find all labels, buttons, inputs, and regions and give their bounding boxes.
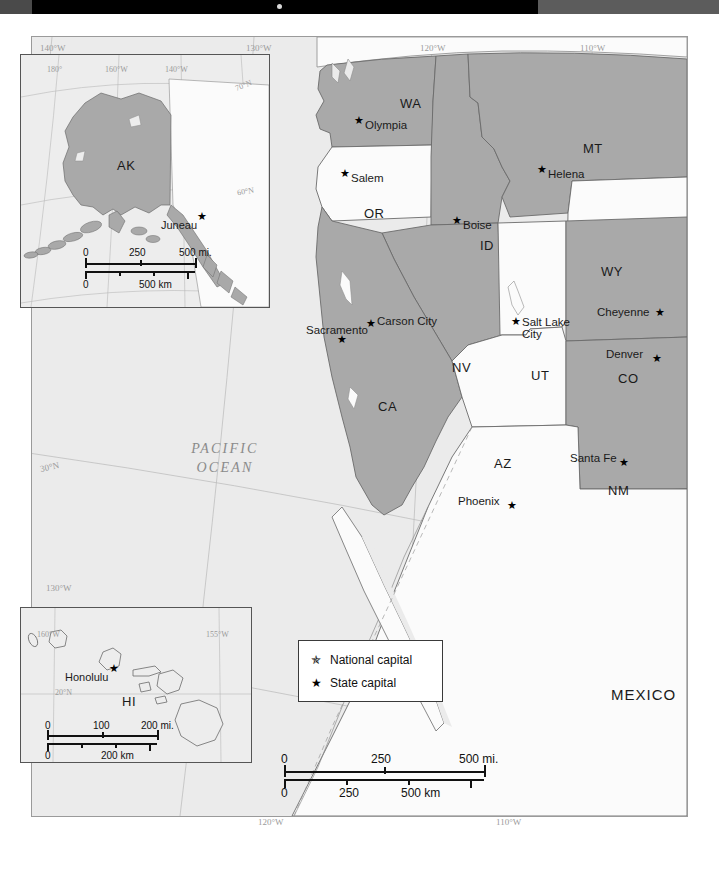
- main-scale-mi-500: 500 mi.: [459, 752, 498, 766]
- hawaii-graticule-20n: 20°N: [55, 688, 72, 697]
- hawaii-graticule-155w: 155°W: [206, 630, 229, 639]
- legend-item-national-capital: ✯ National capital: [309, 653, 412, 667]
- hawaii-capital-star: ★: [109, 663, 119, 674]
- hawaii-scale-mi-100: 100: [93, 720, 110, 731]
- capital-star-phoenix: ★: [507, 500, 517, 511]
- state-co: [566, 217, 687, 341]
- ocean-label-line1: PACIFIC: [150, 440, 300, 459]
- ocean-label-line2: OCEAN: [150, 459, 300, 478]
- graticule-label-130w-top: 130°W: [246, 43, 272, 53]
- alaska-graticule-160w: 160°W: [105, 65, 128, 74]
- capital-star-boise: ★: [452, 215, 462, 226]
- inset-map-alaska: 180° 160°W 140°W 70°N 60°N AK ★ Juneau 0…: [20, 54, 270, 308]
- hawaii-graticule-160w: 160°W: [37, 630, 60, 639]
- chrome-right-segment: [538, 0, 719, 14]
- capital-star-sacramento: ★: [337, 334, 347, 345]
- legend-label-state-capital: State capital: [330, 676, 396, 690]
- legend-item-state-capital: ★ State capital: [309, 676, 396, 690]
- alaska-scale-mi-0: 0: [83, 247, 89, 258]
- main-scale-bar: 0 250 500 mi. 0 250 500 km: [281, 752, 541, 798]
- graticule-label-120w-top: 120°W: [420, 43, 446, 53]
- alaska-scale-km-500: 500 km: [139, 279, 172, 290]
- alaska-graticule-180: 180°: [47, 65, 62, 74]
- graticule-label-120w-bottom: 120°W: [258, 817, 284, 827]
- chrome-indicator-dot: [277, 4, 282, 9]
- state-capital-icon: ★: [309, 676, 323, 690]
- alaska-scale-km-0: 0: [83, 279, 89, 290]
- legend-label-national-capital: National capital: [330, 653, 412, 667]
- main-scale-mi-250: 250: [371, 752, 391, 766]
- graticule-label-140w-top: 140°W: [40, 43, 66, 53]
- main-scale-km-250: 250: [339, 786, 359, 800]
- graticule-label-110w-top: 110°W: [580, 43, 605, 53]
- pacific-ocean-label: PACIFIC OCEAN: [150, 440, 300, 478]
- capital-star-helena: ★: [537, 164, 547, 175]
- capital-star-salt-lake-city: ★: [511, 316, 521, 327]
- alaska-scale-bar: 0 250 500 mi. 0 500 km: [83, 247, 233, 293]
- capital-star-carson-city: ★: [366, 318, 376, 329]
- capital-star-olympia: ★: [354, 115, 364, 126]
- national-capital-icon: ✯: [309, 653, 323, 667]
- country-label-mexico: MEXICO: [611, 686, 676, 703]
- hawaii-scale-bar: 0 100 200 mi. 0 200 km: [45, 720, 195, 762]
- alaska-capital-star: ★: [197, 211, 207, 222]
- main-scale-km-500: 500 km: [401, 786, 440, 800]
- chrome-left-segment: [0, 0, 32, 14]
- graticule-label-130w-left: 130°W: [46, 583, 72, 593]
- state-ut: [498, 221, 566, 335]
- alaska-scale-mi-250: 250: [129, 247, 146, 258]
- main-scale-mi-0: 0: [281, 752, 288, 766]
- map-legend: ✯ National capital ★ State capital: [298, 640, 443, 702]
- capital-star-cheyenne: ★: [655, 307, 665, 318]
- alaska-scale-mi-500: 500 mi.: [179, 247, 212, 258]
- state-or: [316, 145, 432, 221]
- capital-star-santa-fe: ★: [619, 457, 629, 468]
- hawaii-scale-km-0: 0: [45, 750, 51, 761]
- main-scale-km-0: 0: [281, 786, 288, 800]
- alaska-graticule-140w: 140°W: [165, 65, 188, 74]
- hawaii-scale-km-200: 200 km: [101, 750, 134, 761]
- graticule-label-110w-bottom: 110°W: [496, 817, 521, 827]
- window-chrome-bar: [0, 0, 719, 14]
- inset-map-hawaii: 160°W 155°W 20°N ★ Honolulu HI 0 100 200…: [20, 607, 252, 763]
- capital-star-salem: ★: [340, 168, 350, 179]
- capital-star-denver: ★: [652, 353, 662, 364]
- map-page: 140°W 130°W 120°W 110°W 30°N 130°W 120°W…: [0, 0, 719, 871]
